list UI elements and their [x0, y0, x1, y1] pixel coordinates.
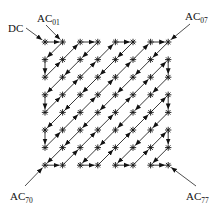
zigzag-step-arrow — [116, 132, 130, 146]
coefficient-node — [95, 92, 101, 98]
zigzag-step-arrow — [47, 78, 61, 92]
coefficient-node — [77, 162, 83, 168]
coefficient-node — [112, 56, 118, 62]
zigzag-step-arrow — [153, 113, 167, 127]
zigzag-step-arrow — [153, 43, 167, 57]
pointer-arrow — [171, 24, 190, 39]
zigzag-step-arrow — [100, 96, 114, 110]
coefficient-node — [130, 92, 136, 98]
coefficient-node — [165, 56, 171, 62]
coefficient-node — [59, 162, 65, 168]
svg-text:AC77: AC77 — [186, 190, 209, 205]
coefficient-node — [77, 39, 83, 45]
coefficient-node — [112, 109, 118, 115]
zigzag-step-arrow — [135, 131, 149, 145]
zigzag-step-arrow — [152, 62, 166, 76]
coefficient-node — [59, 144, 65, 150]
zigzag-step-arrow — [83, 149, 97, 163]
coefficient-node — [42, 127, 48, 133]
coefficient-node — [77, 127, 83, 133]
zigzag-step-arrow — [118, 78, 132, 92]
coefficient-node — [59, 127, 65, 133]
coefficient-node — [59, 92, 65, 98]
zigzag-step-arrow — [118, 113, 132, 127]
coefficient-node — [130, 56, 136, 62]
zigzag-scan-diagram: DCAC01AC07AC70AC77 — [0, 0, 220, 207]
coefficient-node — [147, 144, 153, 150]
coefficient-node — [147, 56, 153, 62]
zigzag-step-arrow — [116, 62, 130, 76]
coefficient-node — [130, 109, 136, 115]
zigzag-step-arrow — [46, 97, 60, 111]
zigzag-step-arrow — [46, 132, 60, 146]
coefficient-node — [59, 56, 65, 62]
coefficient-node — [112, 162, 118, 168]
zigzag-step-arrow — [134, 80, 148, 94]
label-ac01: AC01 — [37, 12, 60, 39]
zigzag-step-arrow — [99, 150, 113, 164]
coefficient-node — [59, 74, 65, 80]
svg-text:AC70: AC70 — [10, 190, 33, 205]
zigzag-step-arrow — [81, 97, 95, 111]
coefficient-node — [147, 162, 153, 168]
coefficient-node — [147, 92, 153, 98]
coefficient-node — [147, 109, 153, 115]
zigzag-step-arrow — [64, 44, 78, 58]
coefficient-node — [165, 39, 171, 45]
coefficient-node — [59, 39, 65, 45]
coefficient-node — [95, 74, 101, 80]
coefficient-node — [130, 74, 136, 80]
coefficient-node — [95, 56, 101, 62]
coefficient-node — [112, 144, 118, 150]
coefficient-node — [112, 127, 118, 133]
coefficient-node — [112, 74, 118, 80]
pointer-arrow — [26, 28, 42, 40]
pointer-arrow — [46, 25, 60, 39]
coefficient-node — [130, 39, 136, 45]
corner-labels: DCAC01AC07AC70AC77 — [8, 10, 209, 205]
coefficient-node — [147, 39, 153, 45]
zigzag-step-arrow — [65, 61, 79, 75]
zigzag-step-arrow — [134, 115, 148, 129]
coefficient-node — [147, 74, 153, 80]
coefficient-node — [147, 127, 153, 133]
zigzag-step-arrow — [152, 132, 166, 146]
coefficient-node — [77, 74, 83, 80]
zigzag-step-arrow — [83, 78, 97, 92]
coefficient-node — [130, 162, 136, 168]
zigzag-step-arrow — [152, 97, 166, 111]
zigzag-step-arrow — [83, 43, 97, 57]
coefficient-node — [130, 127, 136, 133]
zigzag-step-arrow — [46, 62, 60, 76]
zigzag-step-arrow — [100, 131, 114, 145]
coefficient-node — [59, 109, 65, 115]
coefficient-node — [112, 92, 118, 98]
coefficient-node — [42, 92, 48, 98]
coefficient-node — [77, 56, 83, 62]
coefficient-node — [42, 56, 48, 62]
zigzag-step-arrow — [47, 149, 61, 163]
coefficient-node — [42, 162, 48, 168]
coefficient-node — [165, 162, 171, 168]
label-ac70: AC70 — [10, 168, 42, 204]
coefficient-node — [95, 39, 101, 45]
coefficient-node — [165, 74, 171, 80]
coefficient-node — [42, 39, 48, 45]
coefficient-node — [165, 109, 171, 115]
zigzag-step-arrow — [81, 132, 95, 146]
zigzag-step-arrow — [134, 150, 148, 164]
zigzag-step-arrow — [99, 80, 113, 94]
coefficient-node — [42, 74, 48, 80]
zigzag-step-arrow — [118, 43, 132, 57]
coefficient-node — [77, 109, 83, 115]
coefficient-node — [95, 144, 101, 150]
zigzag-step-arrow — [135, 61, 149, 75]
coefficient-node — [77, 144, 83, 150]
pointer-arrow — [25, 168, 42, 186]
coefficient-node — [165, 92, 171, 98]
zigzag-step-arrow — [83, 113, 97, 127]
zigzag-step-arrow — [153, 149, 167, 163]
zigzag-step-arrow — [47, 113, 61, 127]
coefficient-node — [165, 127, 171, 133]
zigzag-step-arrow — [64, 115, 78, 129]
